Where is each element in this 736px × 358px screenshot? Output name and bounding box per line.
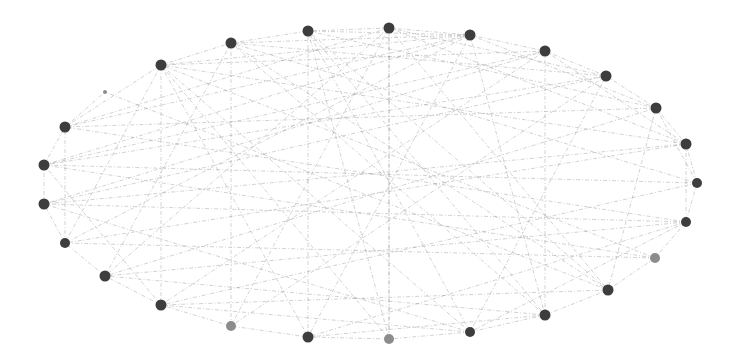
graph-node (601, 71, 612, 82)
graph-edge (470, 35, 545, 315)
graph-node (303, 332, 314, 343)
graph-edge (545, 290, 608, 315)
graph-edge (44, 51, 545, 165)
graph-edge (470, 35, 545, 51)
graph-edge (161, 305, 231, 326)
graph-edge (44, 165, 655, 258)
graph-edge (656, 108, 686, 144)
graph-edge (44, 204, 470, 332)
graph-edge (389, 28, 608, 290)
graph-edge (231, 31, 308, 43)
graph-node (650, 253, 660, 263)
graph-edge (231, 43, 608, 290)
graph-edge (606, 76, 656, 108)
graph-edge (231, 28, 389, 326)
graph-node (103, 90, 107, 94)
graph-edge (545, 51, 606, 76)
graph-edge (161, 51, 545, 65)
graph-node (465, 327, 475, 337)
graph-edge (231, 35, 470, 43)
graph-node (226, 38, 237, 49)
graph-node (603, 285, 614, 296)
graph-edges (44, 28, 697, 339)
graph-node (384, 23, 395, 34)
graph-edge (65, 92, 105, 127)
graph-edge (65, 35, 470, 127)
graph-edge (161, 65, 655, 258)
graph-node (465, 30, 476, 41)
graph-edge (161, 65, 308, 337)
graph-node (681, 139, 692, 150)
graph-node (156, 300, 167, 311)
graph-edge (231, 43, 606, 76)
graph-edge (105, 108, 656, 276)
graph-edge (161, 305, 470, 332)
graph-node (60, 122, 71, 133)
graph-edge (65, 65, 161, 127)
graph-edge (608, 258, 655, 290)
graph-node (60, 238, 70, 248)
graph-node (651, 103, 662, 114)
graph-node (226, 321, 236, 331)
graph-edge (161, 290, 608, 305)
graph-edge (44, 51, 545, 204)
graph-node (692, 178, 702, 188)
graph-edge (308, 31, 656, 108)
graph-edge (65, 144, 686, 243)
graph-edge (389, 28, 606, 76)
graph-edge (65, 127, 686, 222)
graph-nodes (39, 23, 703, 345)
graph-edge (44, 204, 65, 243)
graph-node (681, 217, 691, 227)
graph-edge (389, 28, 470, 35)
graph-node (100, 271, 111, 282)
graph-edge (44, 204, 686, 222)
graph-edge (655, 222, 686, 258)
graph-node (39, 199, 50, 210)
graph-edge (686, 183, 697, 222)
graph-edge (470, 315, 545, 332)
graph-edge (389, 28, 686, 144)
graph-edge (308, 31, 389, 339)
graph-node (156, 60, 167, 71)
graph-edge (470, 35, 656, 108)
graph-node (540, 46, 551, 57)
graph-edge (65, 243, 105, 276)
graph-node (540, 310, 551, 321)
graph-edge (308, 28, 389, 31)
graph-edge (65, 243, 655, 258)
graph-edge (608, 108, 656, 290)
network-graph (0, 0, 736, 358)
graph-edge (105, 28, 389, 276)
graph-node (303, 26, 314, 37)
graph-edge (44, 76, 606, 165)
graph-edge (161, 51, 545, 305)
graph-edge (105, 222, 686, 276)
graph-node (39, 160, 50, 171)
graph-edge (686, 144, 697, 183)
graph-edge (161, 65, 470, 332)
graph-edge (105, 276, 545, 315)
graph-edge (308, 337, 389, 339)
graph-edge (161, 183, 697, 305)
graph-edge (389, 332, 470, 339)
graph-edge (44, 35, 470, 165)
graph-node (384, 334, 394, 344)
graph-edge (44, 165, 697, 183)
graph-edge (308, 31, 608, 290)
graph-edge (470, 222, 686, 332)
graph-edge (231, 326, 308, 337)
graph-edge (231, 43, 697, 183)
